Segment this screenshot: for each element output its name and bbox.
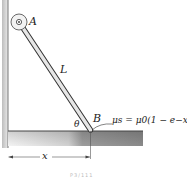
label-l: L <box>60 64 67 75</box>
wall <box>2 0 8 148</box>
figure-caption: P3/111 <box>70 172 93 178</box>
pin-support-icon <box>11 14 27 30</box>
label-a: A <box>29 16 37 27</box>
equation-equals: = <box>125 115 133 125</box>
label-b: B <box>93 113 101 124</box>
ground <box>8 131 143 146</box>
label-theta: θ <box>74 120 79 129</box>
label-x: x <box>42 151 48 161</box>
friction-equation: μs = μ0(1 − e−x) <box>112 116 187 125</box>
equation-rhs: μ0(1 − e−x) <box>136 115 187 125</box>
rod <box>19 22 91 130</box>
equation-lhs: μs <box>112 115 122 125</box>
dimension-x <box>9 152 91 161</box>
